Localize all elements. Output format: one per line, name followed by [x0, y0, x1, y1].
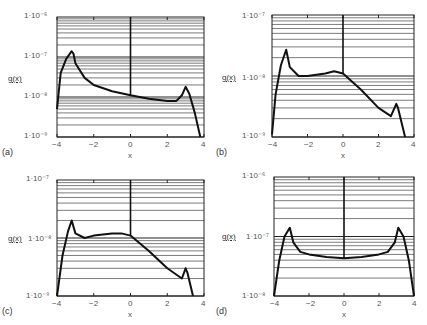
- ytick-d-2: 1·10⁻⁸: [242, 291, 265, 300]
- xtick-d-1: −2: [306, 299, 315, 308]
- xlabel-a: x: [128, 151, 132, 160]
- ytick-a-1: 1·10⁻⁷: [24, 51, 47, 60]
- ytick-c-1: 1·10⁻⁸: [28, 234, 51, 243]
- plot-c: [0, 163, 213, 325]
- xtick-b-4: 4: [411, 140, 415, 149]
- ylabel-b: g(x): [222, 73, 236, 82]
- xtick-a-0: −4: [52, 140, 61, 149]
- ylabel-c: g(x): [8, 234, 22, 243]
- xtick-b-3: 2: [376, 140, 380, 149]
- xlabel-d: x: [342, 310, 346, 319]
- ytick-b-1: 1·10⁻⁸: [242, 73, 265, 82]
- xtick-c-3: 2: [165, 299, 169, 308]
- xtick-b-2: 0: [341, 140, 345, 149]
- ytick-b-2: 1·10⁻⁹: [242, 131, 265, 140]
- panel-c: 1·10⁻⁷ 1·10⁻⁸ 1·10⁻⁹ g(x) −4 −2 0 2 4 x …: [0, 163, 213, 325]
- ytick-d-1: 1·10⁻⁷: [246, 232, 269, 241]
- xtick-c-4: 4: [201, 299, 205, 308]
- xtick-c-2: 0: [128, 299, 132, 308]
- xtick-a-2: 0: [128, 140, 132, 149]
- xtick-b-0: −4: [268, 140, 277, 149]
- ytick-a-0: 1·10⁻⁶: [24, 11, 47, 20]
- ylabel-a: g(x): [8, 74, 22, 83]
- xtick-d-4: 4: [412, 299, 416, 308]
- xtick-c-1: −2: [89, 299, 98, 308]
- panel-label-b: (b): [216, 147, 227, 157]
- panel-label-a: (a): [2, 147, 13, 157]
- ytick-c-0: 1·10⁻⁷: [26, 174, 49, 183]
- panel-b: 1·10⁻⁷ 1·10⁻⁸ 1·10⁻⁹ g(x) −4 −2 0 2 4 x …: [214, 0, 427, 162]
- ytick-a-2: 1·10⁻⁸: [24, 91, 47, 100]
- ytick-b-0: 1·10⁻⁷: [242, 11, 265, 20]
- xtick-d-0: −4: [270, 299, 279, 308]
- panel-d: 1·10⁻⁶ 1·10⁻⁷ 1·10⁻⁸ g(x) −4 −2 0 2 4 x …: [214, 163, 427, 325]
- ytick-d-0: 1·10⁻⁶: [242, 171, 265, 180]
- xlabel-c: x: [128, 310, 132, 319]
- xtick-d-2: 0: [342, 299, 346, 308]
- xtick-d-3: 2: [377, 299, 381, 308]
- xtick-c-0: −4: [52, 299, 61, 308]
- plot-d: [214, 163, 427, 325]
- ytick-a-3: 1·10⁻⁹: [24, 131, 47, 140]
- xtick-a-3: 2: [165, 140, 169, 149]
- xlabel-b: x: [341, 151, 345, 160]
- panel-a: 1·10⁻⁶ 1·10⁻⁷ 1·10⁻⁸ 1·10⁻⁹ g(x) −4 −2 0…: [0, 0, 213, 162]
- xtick-b-1: −2: [304, 140, 313, 149]
- xtick-a-1: −2: [89, 140, 98, 149]
- xtick-a-4: 4: [201, 140, 205, 149]
- panel-label-c: (c): [2, 306, 13, 316]
- ytick-c-2: 1·10⁻⁹: [26, 291, 49, 300]
- panel-label-d: (d): [216, 306, 227, 316]
- ylabel-d: g(x): [222, 232, 236, 241]
